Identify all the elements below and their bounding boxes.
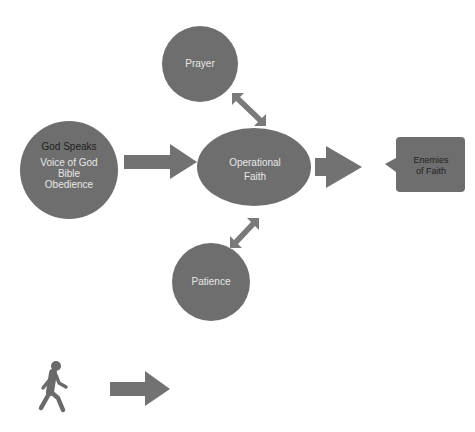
prayer-label: Prayer <box>162 58 238 70</box>
double-arrow-prayer-faith <box>232 93 266 126</box>
arrow-god-to-faith <box>124 144 197 179</box>
enemies-line-1: Enemies <box>400 155 462 166</box>
arrow-faith-to-enemies <box>315 146 362 188</box>
operational-faith-line-2: Faith <box>200 171 310 183</box>
god-speaks-title: God Speaks <box>22 141 116 153</box>
walking-person-icon <box>41 361 66 410</box>
enemies-line-2: of Faith <box>400 166 462 177</box>
double-arrow-patience-faith <box>230 218 259 248</box>
right-arrow-icon <box>110 371 170 406</box>
operational-faith-line-1: Operational <box>200 157 310 169</box>
patience-label: Patience <box>172 276 250 288</box>
god-speaks-line-3: Obedience <box>22 179 116 191</box>
